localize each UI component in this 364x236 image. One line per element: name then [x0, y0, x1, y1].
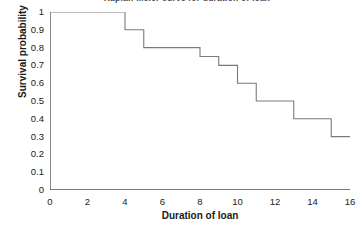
chart-title: Kaplan-Meier curve for duration of loan	[62, 0, 312, 3]
y-tick-label-8: 0.8	[18, 42, 44, 53]
y-tick-label-9: 0.9	[18, 24, 44, 35]
x-tick-label-2: 4	[113, 196, 137, 207]
chart-plot-svg	[50, 12, 350, 190]
x-tick-label-0: 0	[38, 196, 62, 207]
y-tick-label-2: 0.2	[18, 148, 44, 159]
x-tick-label-3: 6	[151, 196, 175, 207]
y-tick-label-1: 0.1	[18, 166, 44, 177]
x-tick-label-1: 2	[76, 196, 100, 207]
x-tick-label-8: 16	[338, 196, 362, 207]
axis-ticks-group	[50, 12, 350, 190]
x-tick-label-5: 10	[226, 196, 250, 207]
y-tick-label-3: 0.3	[18, 131, 44, 142]
y-tick-label-0: 0	[18, 184, 44, 195]
x-tick-label-7: 14	[301, 196, 325, 207]
y-tick-label-6: 0.6	[18, 77, 44, 88]
y-tick-label-7: 0.7	[18, 59, 44, 70]
plot-area: 00.10.20.30.40.50.60.70.80.9102468101214…	[50, 12, 350, 190]
survival-chart-figure: Kaplan-Meier curve for duration of loan …	[0, 0, 364, 236]
axes-group	[50, 12, 350, 190]
y-tick-label-4: 0.4	[18, 113, 44, 124]
y-tick-label-5: 0.5	[18, 95, 44, 106]
x-tick-label-6: 12	[263, 196, 287, 207]
x-axis-label: Duration of loan	[50, 210, 350, 221]
x-tick-label-4: 8	[188, 196, 212, 207]
y-tick-label-10: 1	[18, 6, 44, 17]
survival-step-line	[50, 12, 350, 137]
